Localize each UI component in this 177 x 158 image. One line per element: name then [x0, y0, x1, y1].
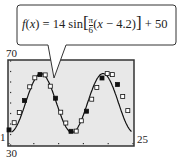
y-min-label: 30 [6, 148, 17, 158]
data-point [43, 73, 47, 77]
data-point [17, 110, 21, 114]
data-point [64, 121, 68, 125]
data-point [54, 96, 58, 100]
data-point [90, 97, 94, 101]
data-point [23, 99, 27, 103]
data-point [7, 128, 11, 132]
data-point [110, 73, 114, 77]
data-point [69, 129, 73, 133]
data-point [74, 129, 78, 133]
data-point [79, 119, 83, 123]
data-point [121, 95, 125, 99]
data-point [105, 72, 109, 76]
equation-label: f(x) = 14 sin[π6(x − 4.2)] + 50 [22, 13, 167, 35]
denominator: 6 [89, 26, 94, 35]
x-min-label: 1 [0, 132, 6, 143]
data-point [100, 76, 104, 80]
data-point [116, 83, 120, 87]
shift-value: 4.2 [116, 17, 132, 31]
data-point [95, 86, 99, 90]
data-point [126, 109, 130, 113]
data-point [33, 76, 37, 80]
vertical-shift: 50 [155, 17, 168, 31]
data-point [48, 84, 52, 88]
y-max-label: 70 [6, 48, 17, 59]
data-point [12, 121, 16, 125]
x-max-label: 25 [137, 134, 148, 145]
data-point [38, 73, 42, 77]
data-point [59, 110, 63, 114]
data-point [28, 85, 32, 89]
data-point [85, 109, 89, 113]
